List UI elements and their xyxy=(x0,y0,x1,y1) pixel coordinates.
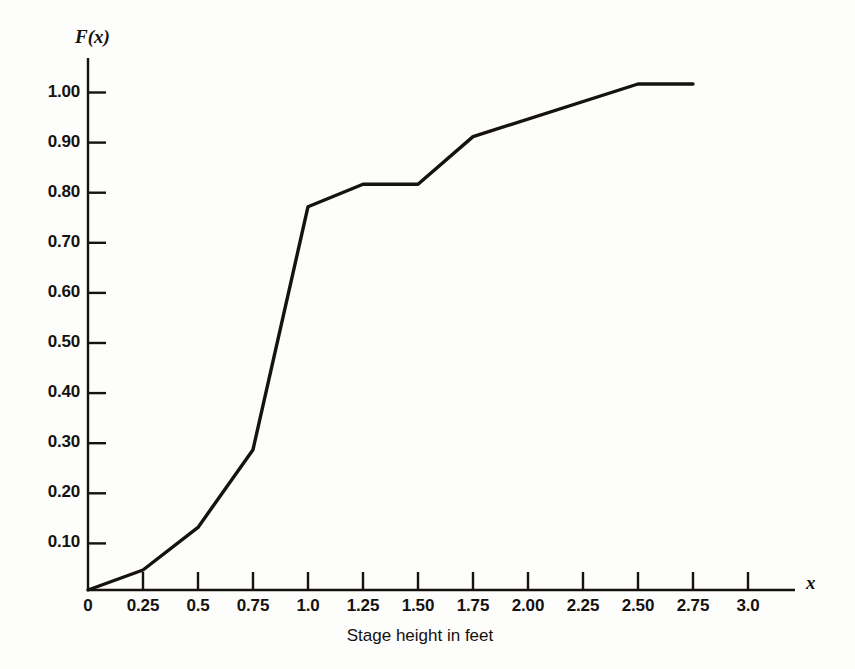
y-axis-title: F(x) xyxy=(75,26,110,48)
y-tick-label: 0.70 xyxy=(18,232,80,252)
y-tick-label: 0.90 xyxy=(18,132,80,152)
figure-container: 1.00 0.90 0.80 0.70 0.60 0.50 0.40 0.30 … xyxy=(0,0,855,669)
x-axis-ticks xyxy=(143,572,748,590)
x-tick-label: 0.75 xyxy=(221,596,285,616)
chart-plot-area xyxy=(0,0,855,669)
y-tick-label: 0.80 xyxy=(18,182,80,202)
x-tick-label: 0 xyxy=(68,596,108,616)
y-tick-label: 0.20 xyxy=(18,482,80,502)
x-axis-caption: Stage height in feet xyxy=(270,626,570,646)
x-tick-label: 1.0 xyxy=(280,596,336,616)
y-tick-label: 1.00 xyxy=(18,82,80,102)
y-tick-label: 0.40 xyxy=(18,382,80,402)
y-axis-ticks xyxy=(88,93,106,544)
x-tick-label: 0.5 xyxy=(170,596,226,616)
x-tick-label: 0.25 xyxy=(111,596,175,616)
y-tick-label: 0.30 xyxy=(18,432,80,452)
y-tick-label: 0.60 xyxy=(18,282,80,302)
x-axis-title: x xyxy=(806,572,816,594)
y-tick-label: 0.50 xyxy=(18,332,80,352)
x-tick-label: 3.0 xyxy=(720,596,776,616)
y-tick-label: 0.10 xyxy=(18,532,80,552)
x-tick-label: 2.75 xyxy=(661,596,725,616)
data-series-line xyxy=(88,84,693,590)
